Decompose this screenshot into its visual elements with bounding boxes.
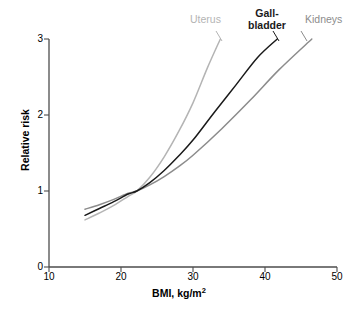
plot-area — [0, 0, 358, 309]
data-curves — [85, 39, 312, 220]
curve-uterus — [85, 39, 220, 220]
x-tick-label-40: 40 — [250, 271, 280, 282]
leader-kidneys — [301, 31, 307, 41]
curve-kidneys — [85, 39, 312, 209]
y-tick-label-3: 3 — [27, 33, 43, 44]
x-tick-label-20: 20 — [106, 271, 136, 282]
y-axis-title: Relative risk — [19, 70, 31, 210]
series-label-gallbladder: Gall- bladder — [248, 8, 286, 31]
y-tick-label-0: 0 — [27, 261, 43, 272]
x-axis-title-superscript: 2 — [202, 286, 206, 295]
label-leaders — [216, 31, 307, 41]
x-axis-title-text: BMI, kg/m — [152, 287, 202, 299]
leader-uterus — [216, 31, 222, 41]
chart-figure: 10 20 30 40 50 0 1 2 3 BMI, kg/m2 Relati… — [0, 0, 358, 309]
x-axis-title: BMI, kg/m2 — [0, 287, 358, 299]
series-label-kidneys: Kidneys — [305, 14, 342, 26]
x-tick-label-10: 10 — [34, 271, 64, 282]
axis-lines — [49, 39, 337, 267]
y-axis-ticks — [44, 39, 49, 267]
x-tick-label-30: 30 — [178, 271, 208, 282]
x-tick-label-50: 50 — [322, 271, 352, 282]
series-label-uterus: Uterus — [190, 14, 221, 26]
